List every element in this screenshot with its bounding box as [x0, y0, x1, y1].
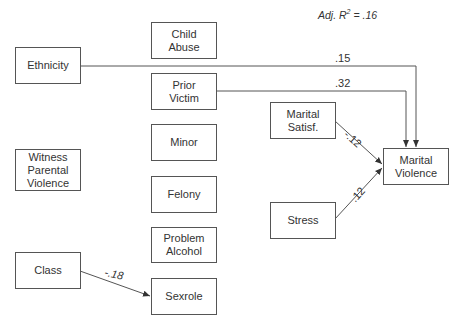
node-label: Stress — [287, 214, 318, 227]
node-felony: Felony — [151, 176, 217, 213]
node-ethnicity: Ethnicity — [15, 47, 81, 84]
node-problem-alcohol: Problem Alcohol — [151, 227, 217, 263]
node-marital-violence: Marital Violence — [383, 148, 449, 185]
node-label: Prior Victim — [169, 79, 199, 105]
node-stress: Stress — [270, 202, 336, 239]
node-label: Problem Alcohol — [164, 232, 205, 258]
coef-ethnicity: .15 — [335, 52, 350, 64]
node-label: Witness Parental Violence — [27, 151, 69, 190]
node-label: Minor — [170, 136, 198, 149]
node-child-abuse: Child Abuse — [151, 22, 217, 59]
node-label: Marital Violence — [395, 154, 437, 180]
node-label: Child Abuse — [168, 28, 199, 54]
path-ethnicity-violence — [80, 66, 416, 147]
node-prior-victim: Prior Victim — [151, 73, 217, 110]
node-minor: Minor — [151, 124, 217, 161]
node-label: Ethnicity — [27, 59, 69, 72]
node-marital-satisf: Marital Satisf. — [270, 102, 336, 139]
node-label: Felony — [167, 188, 200, 201]
node-sexrole: Sexrole — [151, 278, 217, 315]
node-label: Class — [34, 264, 62, 277]
coef-prior-victim: .32 — [335, 77, 350, 89]
node-label: Marital Satisf. — [286, 108, 319, 134]
node-label: Sexrole — [165, 290, 202, 303]
node-class: Class — [15, 252, 81, 289]
node-witness-parental-violence: Witness Parental Violence — [15, 149, 81, 191]
